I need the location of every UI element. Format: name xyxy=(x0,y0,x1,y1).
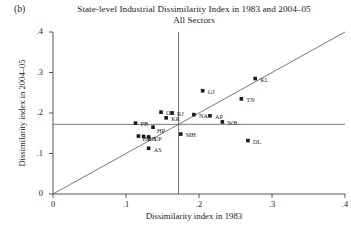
x-tick-label: .3 xyxy=(262,200,282,209)
data-point-wb xyxy=(221,120,225,124)
figure-panel-b: (b) State-level Industrial Dissimilarity… xyxy=(0,0,351,231)
point-label-gj: GJ xyxy=(208,89,215,96)
data-point-or xyxy=(159,110,163,114)
data-point-tn xyxy=(240,97,244,101)
point-label-dl: DL xyxy=(253,139,261,146)
point-label-pb: PB xyxy=(140,121,148,128)
x-tick-label: .4 xyxy=(335,200,351,209)
point-label-tn: TN xyxy=(246,97,254,104)
x-tick-label: .1 xyxy=(116,200,136,209)
point-label-wb: WB xyxy=(227,120,237,127)
data-point-as xyxy=(147,146,151,150)
data-point-na xyxy=(192,113,196,117)
point-label-mh: MH xyxy=(186,132,196,139)
x-tick-label: 0 xyxy=(43,200,63,209)
point-label-kr: KR xyxy=(171,116,180,123)
data-point-hr xyxy=(137,134,141,138)
data-point-gj xyxy=(201,89,205,93)
data-point-hp xyxy=(151,125,155,129)
y-tick-label: 0 xyxy=(21,189,43,198)
y-tick-label: .4 xyxy=(21,27,43,36)
data-point-pb xyxy=(134,121,138,125)
point-label-hp: HP xyxy=(157,128,165,135)
point-label-kl: KL xyxy=(260,77,268,84)
data-point-dl xyxy=(246,139,250,143)
point-label-na: NA xyxy=(199,113,208,120)
data-point-kl xyxy=(253,77,257,81)
y-tick-label: .3 xyxy=(21,68,43,77)
data-point-ap xyxy=(208,114,212,118)
y-tick-label: .1 xyxy=(21,149,43,158)
point-label-ap: AP xyxy=(215,114,223,121)
data-point-mh xyxy=(179,132,183,136)
y-tick-label: .2 xyxy=(21,108,43,117)
point-label-as: AS xyxy=(154,147,162,154)
point-label-up: UP xyxy=(154,136,162,143)
x-tick-label: .2 xyxy=(189,200,209,209)
